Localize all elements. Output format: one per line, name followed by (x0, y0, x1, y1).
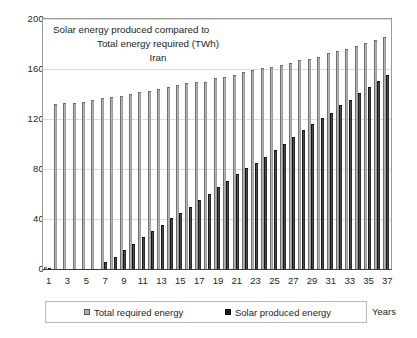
x-axis-tick-label: 19 (209, 276, 227, 286)
legend-label-total: Total required energy (94, 307, 183, 318)
bar-group (345, 19, 354, 269)
x-axis-tick-label: 3 (59, 276, 77, 286)
bar-group (195, 19, 204, 269)
bar-solar-produced-energy (189, 207, 192, 270)
bar-group (280, 19, 289, 269)
x-axis-tick-label: 33 (341, 276, 359, 286)
bar-solar-produced-energy (151, 231, 154, 269)
bar-group (336, 19, 345, 269)
bar-total-required-energy (129, 94, 132, 269)
bar-solar-produced-energy (48, 268, 51, 269)
bar-solar-produced-energy (198, 200, 201, 269)
bar-total-required-energy (120, 96, 123, 269)
bar-group (120, 19, 129, 269)
legend-item-solar-produced-energy: Solar produced energy (225, 307, 331, 318)
x-axis-title: Years (372, 306, 396, 317)
bar-total-required-energy (73, 103, 76, 269)
bar-total-required-energy (63, 103, 66, 269)
legend-swatch-icon-total (84, 309, 90, 315)
bar-total-required-energy (82, 102, 85, 270)
x-axis-tick-label: 25 (265, 276, 283, 286)
y-axis-tick-label: 40 (10, 214, 44, 224)
bar-group (233, 19, 242, 269)
x-axis-tick-label: 1 (40, 276, 58, 286)
x-axis-tick-label: 5 (77, 276, 95, 286)
bar-series-layer (43, 19, 391, 269)
bar-solar-produced-energy (114, 257, 117, 269)
bar-solar-produced-energy (104, 262, 107, 269)
x-axis-tick-label: 27 (284, 276, 302, 286)
bar-solar-produced-energy (292, 137, 295, 269)
bar-solar-produced-energy (283, 144, 286, 269)
bar-solar-produced-energy (179, 213, 182, 269)
bar-total-required-energy (54, 104, 57, 269)
bar-group (251, 19, 260, 269)
x-axis-tick-label: 17 (190, 276, 208, 286)
bar-group (91, 19, 100, 269)
bar-group (176, 19, 185, 269)
bar-solar-produced-energy (236, 174, 239, 269)
bar-group (73, 19, 82, 269)
bar-total-required-energy (91, 100, 94, 269)
bar-group (355, 19, 364, 269)
x-axis-tick-label: 11 (134, 276, 152, 286)
chart-legend: Total required energy Solar produced ene… (45, 301, 367, 323)
bar-group (364, 19, 373, 269)
bar-group (63, 19, 72, 269)
bar-group (327, 19, 336, 269)
bar-solar-produced-energy (264, 157, 267, 270)
bar-solar-produced-energy (274, 150, 277, 269)
bar-solar-produced-energy (349, 100, 352, 269)
bar-group (167, 19, 176, 269)
bar-group (129, 19, 138, 269)
y-axis-tick-label: 80 (10, 164, 44, 174)
bar-solar-produced-energy (368, 87, 371, 269)
x-axis-tick-label: 37 (378, 276, 396, 286)
bar-group (82, 19, 91, 269)
bar-solar-produced-energy (170, 218, 173, 269)
bar-group (383, 19, 392, 269)
x-axis-tick-label: 13 (153, 276, 171, 286)
bar-group (223, 19, 232, 269)
bar-solar-produced-energy (386, 75, 389, 269)
y-axis-tick-label: 200 (10, 14, 44, 24)
bar-total-required-energy (110, 97, 113, 269)
x-axis-tick-label: 15 (171, 276, 189, 286)
bar-solar-produced-energy (132, 244, 135, 269)
bar-solar-produced-energy (255, 163, 258, 269)
x-axis-tick-label: 29 (303, 276, 321, 286)
x-axis-tick-label: 31 (322, 276, 340, 286)
bar-total-required-energy (101, 98, 104, 269)
bar-group (317, 19, 326, 269)
chart-container: 04080120160200 Solar energy produced com… (0, 0, 417, 338)
bar-solar-produced-energy (339, 105, 342, 269)
bar-solar-produced-energy (358, 93, 361, 269)
bar-solar-produced-energy (123, 250, 126, 269)
bar-group (298, 19, 307, 269)
bar-group (242, 19, 251, 269)
bar-solar-produced-energy (311, 124, 314, 269)
bar-group (185, 19, 194, 269)
bar-solar-produced-energy (161, 225, 164, 269)
bar-group (138, 19, 147, 269)
x-axis-tick-label: 7 (96, 276, 114, 286)
bar-solar-produced-energy (226, 181, 229, 269)
bar-group (110, 19, 119, 269)
x-axis-tick-label: 35 (359, 276, 377, 286)
x-axis-tick-label: 23 (247, 276, 265, 286)
bar-group (214, 19, 223, 269)
bar-group (308, 19, 317, 269)
bar-group (157, 19, 166, 269)
bar-solar-produced-energy (377, 81, 380, 269)
bar-group (374, 19, 383, 269)
legend-label-solar: Solar produced energy (235, 307, 331, 318)
bar-solar-produced-energy (321, 118, 324, 269)
y-axis-tick-label: 0 (10, 264, 44, 274)
bar-group (101, 19, 110, 269)
legend-item-total-required-energy: Total required energy (84, 307, 183, 318)
x-axis-tick-label: 21 (228, 276, 246, 286)
bar-solar-produced-energy (217, 187, 220, 269)
bar-solar-produced-energy (208, 194, 211, 269)
bar-group (148, 19, 157, 269)
legend-swatch-icon-solar (225, 309, 231, 315)
